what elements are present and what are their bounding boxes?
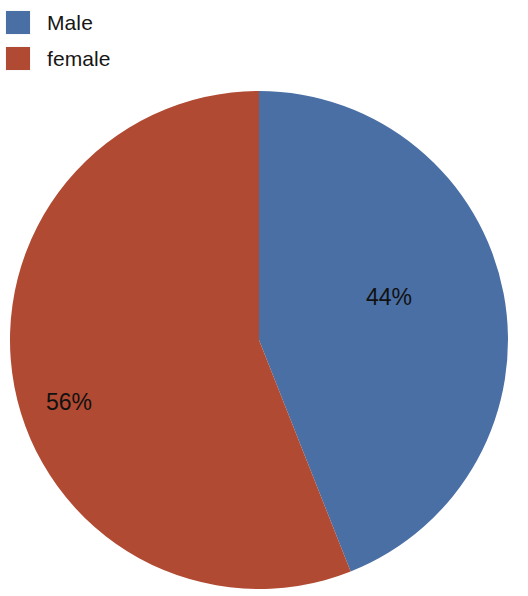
pie-svg: 44% 56%: [0, 0, 528, 596]
pie-label-female-percent: 56%: [46, 389, 92, 415]
legend-item-male[interactable]: Male: [6, 4, 111, 40]
legend-swatch-male-icon: [6, 11, 30, 34]
legend-swatch-female-icon: [6, 47, 30, 70]
chart-legend: Male female: [6, 4, 111, 76]
legend-label-female: female: [47, 48, 111, 69]
legend-label-male: Male: [47, 12, 93, 33]
pie-label-male-percent: 44%: [366, 284, 412, 310]
legend-item-female[interactable]: female: [6, 40, 111, 76]
pie-chart-graphic: 44% 56%: [0, 0, 528, 596]
pie-chart-screenshot: 44% 56% Male female: [0, 0, 528, 596]
